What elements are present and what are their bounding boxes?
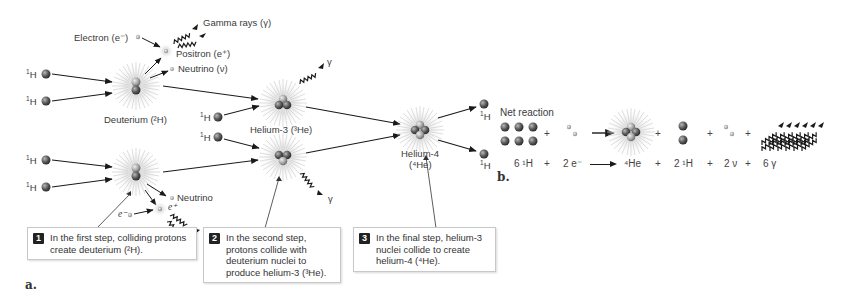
positron-icon xyxy=(158,43,174,59)
plus-sign: + xyxy=(655,128,661,139)
six-gamma-rays-icon xyxy=(760,122,824,154)
two-protons-icon xyxy=(679,122,688,145)
helium-4-label: Helium-4 xyxy=(401,148,439,159)
helium-4-nucleus-icon xyxy=(396,106,444,154)
deuterium-nucleus-icon xyxy=(112,62,160,110)
gamma-label: γ xyxy=(328,193,333,204)
gamma-rays-label: Gamma rays (γ) xyxy=(203,17,271,28)
proton-icon xyxy=(42,70,51,79)
proton-icon xyxy=(214,133,223,142)
panel-a-label: a. xyxy=(25,278,37,292)
neutrino-icon xyxy=(170,196,174,200)
plus-sign: + xyxy=(745,128,751,139)
proton-icon xyxy=(42,183,51,192)
proton-icon xyxy=(480,150,489,159)
deuterium-nucleus-icon xyxy=(112,148,160,196)
neutrino-icon xyxy=(170,67,174,71)
gamma-label: γ xyxy=(327,56,332,67)
equation-term-gamma: 6 γ xyxy=(763,158,776,169)
step-number-badge: 1 xyxy=(33,233,44,244)
neutrino-label: Neutrino (ν) xyxy=(178,63,228,74)
gamma-ray-icon xyxy=(298,63,324,87)
proton-label: 1H xyxy=(26,155,37,166)
helium-3-label: Helium-3 (³He) xyxy=(250,124,312,135)
two-electrons-icon xyxy=(567,125,577,136)
proton-icon xyxy=(42,156,51,165)
equation-term-electrons: 2 e⁻ xyxy=(563,158,582,169)
neutrino-label: Neutrino xyxy=(177,192,213,203)
helium-4-nucleus-icon xyxy=(607,108,655,156)
plus-sign: + xyxy=(707,128,713,139)
plus-sign: + xyxy=(655,158,661,169)
plus-sign: + xyxy=(745,158,751,169)
proton-label: 1H xyxy=(480,111,491,122)
callout-step-2: 2 In the second step, protons collide wi… xyxy=(203,227,341,283)
plus-sign: + xyxy=(544,128,550,139)
equation-term-neutrinos: 2 ν xyxy=(724,158,737,169)
proton-label: 1H xyxy=(26,96,37,107)
gamma-ray-icon xyxy=(298,172,323,195)
electron-icon xyxy=(128,213,132,217)
deuterium-label: Deuterium (²H) xyxy=(104,114,167,125)
helium-3-nucleus-icon xyxy=(259,133,307,181)
equation-arrow-head xyxy=(610,161,617,167)
proton-label: 1H xyxy=(26,182,37,193)
callout-step-3: 3 In the final step, helium-3 nuclei col… xyxy=(353,227,496,272)
positron-icon xyxy=(152,201,168,217)
callout-text: In the second step, protons collide with… xyxy=(226,232,326,278)
callout-step-1: 1 In the first step, colliding protons c… xyxy=(27,227,197,260)
helium-4-symbol-label: (⁴He) xyxy=(409,159,432,170)
proton-icon xyxy=(42,97,51,106)
proton-label: 1H xyxy=(26,69,37,80)
proton-label: 1H xyxy=(480,160,491,171)
step-number-badge: 3 xyxy=(359,233,370,244)
proton-label: 1H xyxy=(200,132,211,143)
net-reaction-title: Net reaction xyxy=(500,107,554,118)
positron-label: Positron (e⁺) xyxy=(176,48,230,59)
proton-label: 1H xyxy=(200,112,211,123)
callout-text: In the final step, helium-3 nuclei colli… xyxy=(376,232,482,266)
callout-2-leader xyxy=(265,178,279,228)
proton-icon xyxy=(214,113,223,122)
panel-b-label: b. xyxy=(497,170,510,184)
proton-icon xyxy=(480,100,489,109)
six-protons-icon xyxy=(501,123,538,146)
proton-proton-chain-diagram: 1H 1H 1H 1H 1H 1H 1H 1H Electron (e⁻) Ga… xyxy=(0,0,843,298)
equation-term-protons-out: 2 ¹H xyxy=(674,158,693,169)
plus-sign: + xyxy=(544,158,550,169)
positron-label: e⁺ xyxy=(168,202,177,213)
electron-label: Electron (e⁻) xyxy=(74,32,128,43)
equation-arrow xyxy=(590,164,612,165)
equation-term-protons: 6 ¹H xyxy=(514,158,533,169)
callout-text: In the first step, colliding protons cre… xyxy=(50,232,186,255)
plus-sign: + xyxy=(707,158,713,169)
helium-3-nucleus-icon xyxy=(259,79,307,127)
electron-label: e⁻ xyxy=(118,209,127,220)
step-number-badge: 2 xyxy=(209,233,220,244)
equation-term-helium-4: ⁴He xyxy=(624,158,641,169)
two-neutrinos-icon xyxy=(724,125,734,136)
electron-icon xyxy=(136,35,140,39)
